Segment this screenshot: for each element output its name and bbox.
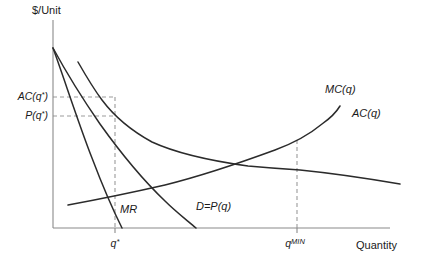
natural-monopoly-chart: $/Unit Quantity MC(q) AC(q) MR D=P(q) AC… bbox=[0, 0, 422, 262]
q-min-tick-label: qMIN bbox=[285, 237, 305, 249]
mr-curve-label: MR bbox=[120, 203, 137, 215]
q-star-tick-superscript: * bbox=[116, 237, 120, 246]
q-min-tick-superscript: MIN bbox=[291, 237, 305, 246]
demand-curve bbox=[53, 48, 196, 228]
p-star-main: P(q bbox=[25, 109, 42, 121]
economics-diagram-figure: $/Unit Quantity MC(q) AC(q) MR D=P(q) AC… bbox=[0, 0, 422, 262]
ac-star-value-label: AC(q*) bbox=[17, 90, 48, 102]
y-value-tick-labels-group: AC(q*) P(q*) bbox=[17, 90, 48, 121]
axis-titles-group: $/Unit Quantity bbox=[32, 4, 397, 251]
x-axis-label: Quantity bbox=[356, 239, 397, 251]
ac-curve-label: AC(q) bbox=[351, 107, 381, 119]
x-value-tick-labels-group: q* qMIN bbox=[111, 237, 306, 249]
ac-star-main: AC(q bbox=[17, 90, 42, 102]
guide-lines-group bbox=[53, 97, 297, 228]
average-cost-curve bbox=[78, 62, 400, 184]
demand-curve-label: D=P(q) bbox=[196, 200, 231, 212]
marginal-cost-curve bbox=[68, 106, 340, 205]
q-star-tick-label: q* bbox=[111, 237, 121, 249]
mc-curve-label: MC(q) bbox=[325, 83, 356, 95]
y-axis-label: $/Unit bbox=[32, 4, 61, 16]
p-star-value-label: P(q*) bbox=[25, 109, 48, 121]
